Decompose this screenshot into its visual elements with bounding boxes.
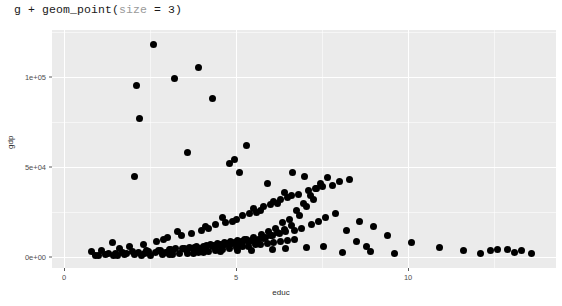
scatter-point [367,248,374,255]
scatter-point [460,247,467,254]
scatter-point [234,247,241,254]
scatter-point [296,212,303,219]
scatter-point [95,252,102,259]
x-tick-label: 10 [404,273,412,282]
scatter-point [243,142,250,149]
y-tick-label: 5e+04 [25,163,46,172]
scatter-point [267,232,274,239]
scatter-point [336,178,343,185]
gridline-major-horizontal [52,77,556,78]
scatter-point [301,173,308,180]
scatter-point [295,191,302,198]
y-tick-label: 1e+05 [25,72,46,81]
scatter-point [159,251,166,258]
scatter-point [114,252,121,259]
scatter-point [310,196,317,203]
scatter-point [150,41,157,48]
gridline-major-horizontal [52,167,556,168]
scatter-point [289,169,296,176]
scatter-point [370,223,377,230]
y-tick-label: 0e+00 [25,253,46,262]
scatter-point [200,249,207,256]
scatter-point [332,210,339,217]
scatter-point [209,95,216,102]
gridline-major-vertical [236,30,237,268]
scatter-point [153,238,160,245]
x-tick-label: 5 [234,273,238,282]
code-argument-size: size [119,3,147,16]
gridline-major-vertical [64,30,65,268]
x-tick-label: 0 [62,273,66,282]
scatter-point [315,218,322,225]
scatter-point [236,169,243,176]
y-tick-mark [49,167,52,168]
scatter-point [264,180,271,187]
scatter-point [171,75,178,82]
scatter-point [346,176,353,183]
scatter-point [205,225,212,232]
plot-panel [52,30,556,268]
scatter-point [391,250,398,257]
scatter-point [477,250,484,257]
scatter-point [166,251,173,258]
scatter-point [248,247,255,254]
scatter-point [138,252,145,259]
gridline-minor-vertical [150,30,151,268]
scatter-point [190,250,197,257]
scatter-point [131,173,138,180]
scatter-point [303,203,310,210]
scatter-point [269,246,276,253]
scatter-point [133,82,140,89]
scatter-point [121,251,128,258]
scatter-point [303,244,310,251]
y-tick-mark [49,76,52,77]
scatter-point [257,241,264,248]
scatter-point [217,248,224,255]
scatter-point [298,225,305,232]
ggplot-figure: 0e+005e+041e+05 0510 gdp educ [0,22,562,306]
y-axis-title: gdp [6,136,15,149]
y-tick-mark [49,257,52,258]
x-tick-mark [236,268,237,271]
gridline-major-horizontal [52,257,556,258]
scatter-point [147,252,154,259]
scatter-point [528,250,535,257]
scatter-point [195,64,202,71]
scatter-point [212,221,219,228]
scatter-point [136,115,143,122]
scatter-point [324,174,331,181]
x-tick-mark [408,268,409,271]
scatter-point [267,201,274,208]
scatter-point [436,244,443,251]
scatter-point [102,251,109,258]
scatter-point [291,236,298,243]
scatter-point [518,247,525,254]
scatter-point [343,227,350,234]
scatter-point [164,234,171,241]
scatter-point [494,246,501,253]
scatter-point [282,245,289,252]
gridline-minor-vertical [322,30,323,268]
scatter-point [288,192,295,199]
scatter-point [178,232,185,239]
scatter-point [226,245,233,252]
console-code-line: g + geom_point(size = 3) [14,2,182,18]
gridline-minor-horizontal [52,122,556,123]
scatter-point [317,180,324,187]
gridline-major-vertical [408,30,409,268]
scatter-point [408,239,415,246]
scatter-point [356,218,363,225]
scatter-point [109,239,116,246]
scatter-point [184,149,191,156]
gridline-minor-horizontal [52,212,556,213]
scatter-point [339,249,346,256]
x-axis-title-text: educ [272,288,289,297]
x-axis-title: educ [0,288,562,297]
scatter-point [281,226,288,233]
code-suffix: = 3) [147,3,182,16]
gridline-minor-vertical [494,30,495,268]
scatter-point [320,243,327,250]
scatter-point [329,182,336,189]
scatter-point [176,250,183,257]
x-tick-mark [64,268,65,271]
